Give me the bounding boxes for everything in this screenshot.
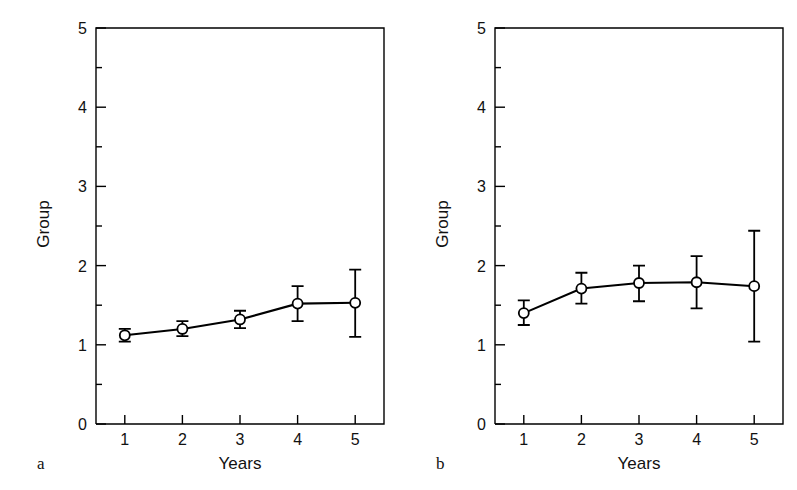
y-tick-label: 5 xyxy=(477,20,486,37)
axis-frame xyxy=(96,28,384,424)
x-tick-label: 1 xyxy=(120,431,129,448)
panel-letter-a: a xyxy=(37,454,45,474)
chart-panel-a: 01234512345 Group Years a xyxy=(0,0,398,490)
x-tick-label: 5 xyxy=(750,431,759,448)
chart-panel-b: 01234512345 Group Years b xyxy=(399,0,797,490)
plot-area-a: 01234512345 xyxy=(0,0,398,490)
panel-letter-b: b xyxy=(436,454,445,474)
axis-frame xyxy=(495,28,783,424)
data-point-marker xyxy=(749,281,759,291)
x-tick-label: 3 xyxy=(635,431,644,448)
y-axis-title-a: Group xyxy=(34,174,54,274)
x-tick-label: 4 xyxy=(293,431,302,448)
data-point-marker xyxy=(350,298,360,308)
y-tick-label: 3 xyxy=(477,178,486,195)
data-point-marker xyxy=(293,299,303,309)
y-tick-label: 2 xyxy=(477,258,486,275)
x-tick-label: 2 xyxy=(577,431,586,448)
plot-area-b: 01234512345 xyxy=(399,0,797,490)
y-axis-title-b: Group xyxy=(433,174,453,274)
data-point-marker xyxy=(177,324,187,334)
data-point-marker xyxy=(634,278,644,288)
y-tick-label: 2 xyxy=(78,258,87,275)
x-tick-label: 2 xyxy=(178,431,187,448)
x-axis-title-b: Years xyxy=(599,454,679,474)
x-tick-label: 3 xyxy=(236,431,245,448)
x-tick-label: 1 xyxy=(519,431,528,448)
y-tick-label: 0 xyxy=(477,416,486,433)
data-point-marker xyxy=(576,284,586,294)
y-tick-label: 1 xyxy=(78,337,87,354)
y-tick-label: 0 xyxy=(78,416,87,433)
data-point-marker xyxy=(235,314,245,324)
y-tick-label: 1 xyxy=(477,337,486,354)
y-tick-label: 3 xyxy=(78,178,87,195)
x-tick-label: 5 xyxy=(351,431,360,448)
data-point-marker xyxy=(692,277,702,287)
y-tick-label: 5 xyxy=(78,20,87,37)
x-axis-title-a: Years xyxy=(200,454,280,474)
data-point-marker xyxy=(120,330,130,340)
x-tick-label: 4 xyxy=(692,431,701,448)
y-tick-label: 4 xyxy=(477,99,486,116)
figure-canvas: 01234512345 Group Years a 01234512345 Gr… xyxy=(0,0,797,490)
y-tick-label: 4 xyxy=(78,99,87,116)
data-point-marker xyxy=(519,308,529,318)
